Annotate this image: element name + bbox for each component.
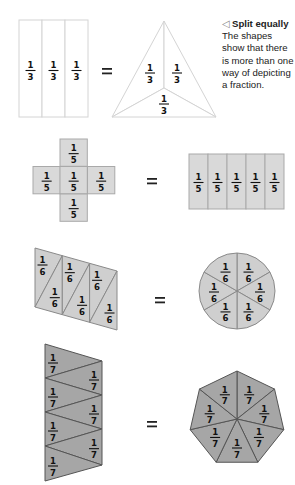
- fraction-numerator: 1: [71, 197, 77, 208]
- fraction-numerator: 1: [174, 62, 180, 73]
- fraction-denominator: 5: [196, 183, 202, 194]
- fraction-denominator: 7: [50, 432, 56, 443]
- sevenths-trapezoid: 17171717171717: [45, 344, 102, 481]
- thirds-rectangle: 131313: [19, 20, 88, 117]
- row-sixths: 161616161616161616161616: [35, 248, 275, 330]
- equals-bar-top: [102, 68, 112, 70]
- fraction-numerator: 1: [215, 171, 221, 182]
- fraction-denominator: 6: [67, 273, 73, 284]
- fraction-denominator: 3: [161, 105, 167, 116]
- equals-bar-bottom: [155, 302, 165, 304]
- fraction-denominator: 5: [98, 182, 104, 193]
- fraction-numerator: 1: [67, 261, 73, 272]
- fraction-numerator: 1: [234, 171, 240, 182]
- equals-bar-bottom: [147, 426, 157, 428]
- fraction-denominator: 6: [79, 306, 85, 317]
- equals-sign: [147, 421, 157, 427]
- fifths-cross: 1515151515: [33, 139, 115, 221]
- equals-bar-top: [147, 421, 157, 423]
- fraction-denominator: 6: [223, 312, 229, 323]
- sixths-parallelogram: 161616161616: [35, 248, 117, 330]
- caption-title-line: ◁Split equally: [222, 18, 294, 30]
- fraction-denominator: 7: [212, 438, 218, 449]
- fraction-numerator: 1: [246, 261, 252, 272]
- equals-sign: [147, 178, 157, 184]
- fraction-denominator: 5: [272, 183, 278, 194]
- caption-body: The shapes show that there is more than …: [222, 30, 294, 91]
- row-thirds: 131313131313: [19, 20, 216, 117]
- thirds-triangle: 131313: [112, 21, 216, 117]
- fraction-numerator: 1: [50, 420, 56, 431]
- fraction-denominator: 3: [174, 74, 180, 85]
- fraction-denominator: 7: [50, 398, 56, 409]
- fraction-numerator: 1: [50, 352, 56, 363]
- fraction-denominator: 7: [261, 414, 267, 425]
- sevenths-heptagon: 17171717171717: [190, 371, 284, 462]
- fraction-denominator: 5: [215, 183, 221, 194]
- fraction-denominator: 5: [44, 182, 50, 193]
- fraction-denominator: 3: [74, 71, 80, 82]
- equals-bar-top: [147, 178, 157, 180]
- fraction-numerator: 1: [107, 302, 113, 313]
- fraction-numerator: 1: [51, 59, 57, 70]
- fraction-numerator: 1: [211, 281, 217, 292]
- fraction-numerator: 1: [261, 403, 267, 414]
- fraction-numerator: 1: [44, 170, 50, 181]
- fraction-denominator: 7: [91, 415, 97, 426]
- fraction-numerator: 1: [161, 93, 167, 104]
- fraction-numerator: 1: [71, 170, 77, 181]
- equals-sign: [155, 297, 165, 303]
- fraction-numerator: 1: [98, 170, 104, 181]
- fraction-numerator: 1: [207, 403, 213, 414]
- fraction-denominator: 5: [71, 209, 77, 220]
- fraction-numerator: 1: [71, 142, 77, 153]
- fraction-numerator: 1: [256, 426, 262, 437]
- fraction-numerator: 1: [40, 254, 46, 265]
- fraction-denominator: 7: [91, 381, 97, 392]
- fraction-numerator: 1: [246, 301, 252, 312]
- fraction-numerator: 1: [91, 403, 97, 414]
- fraction-numerator: 1: [74, 59, 80, 70]
- fraction-denominator: 7: [50, 467, 56, 478]
- fraction-denominator: 5: [71, 154, 77, 165]
- fraction-denominator: 6: [211, 293, 217, 304]
- fraction-numerator: 1: [147, 62, 153, 73]
- fraction-denominator: 7: [256, 438, 262, 449]
- fraction-denominator: 7: [91, 449, 97, 460]
- fraction-numerator: 1: [223, 301, 229, 312]
- fraction-numerator: 1: [196, 171, 202, 182]
- row-fifths: 15151515151515151515: [33, 139, 284, 221]
- fraction-numerator: 1: [52, 286, 58, 297]
- fraction-numerator: 1: [257, 281, 263, 292]
- fraction-denominator: 6: [223, 273, 229, 284]
- caption-title: Split equally: [232, 18, 289, 29]
- fraction-denominator: 7: [222, 395, 228, 406]
- fraction-numerator: 1: [223, 261, 229, 272]
- equals-bar-bottom: [102, 73, 112, 75]
- fraction-numerator: 1: [253, 171, 259, 182]
- fifths-rectangle: 1515151515: [189, 154, 284, 209]
- caption: ◁Split equally The shapes show that ther…: [222, 18, 294, 91]
- row-sevenths: 1717171717171717171717171717: [45, 344, 284, 481]
- sixths-circle: 161616161616: [199, 253, 275, 329]
- fraction-numerator: 1: [50, 455, 56, 466]
- fraction-denominator: 6: [94, 281, 100, 292]
- fraction-denominator: 6: [107, 314, 113, 325]
- fraction-denominator: 5: [234, 183, 240, 194]
- fraction-numerator: 1: [91, 437, 97, 448]
- fraction-denominator: 7: [246, 395, 252, 406]
- equals-sign: [102, 68, 112, 74]
- fraction-denominator: 5: [71, 182, 77, 193]
- fraction-denominator: 7: [50, 364, 56, 375]
- fraction-numerator: 1: [222, 384, 228, 395]
- fraction-denominator: 6: [246, 312, 252, 323]
- fraction-denominator: 3: [147, 74, 153, 85]
- fraction-denominator: 6: [52, 298, 58, 309]
- fraction-numerator: 1: [94, 269, 100, 280]
- fraction-denominator: 7: [234, 449, 240, 460]
- equals-bar-bottom: [147, 183, 157, 185]
- fraction-numerator: 1: [234, 437, 240, 448]
- fraction-denominator: 5: [253, 183, 259, 194]
- fraction-denominator: 6: [40, 266, 46, 277]
- fraction-numerator: 1: [246, 384, 252, 395]
